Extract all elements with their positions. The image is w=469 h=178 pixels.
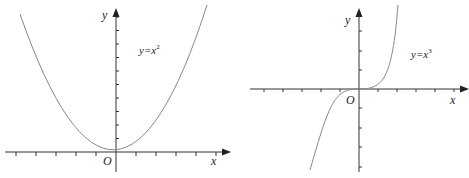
y-axis-label: y <box>101 8 108 22</box>
origin-label: O <box>103 154 112 168</box>
y-axis-arrow-icon <box>356 8 363 17</box>
x-axis-arrow-icon <box>460 86 469 93</box>
function-graphs: y x O y=x2 y <box>0 0 469 178</box>
parabola-curve <box>20 5 207 150</box>
y-axis-arrow-icon <box>113 8 120 17</box>
y-axis-label: y <box>344 13 351 27</box>
x-axis-arrow-icon <box>222 149 231 156</box>
graphs-svg: y x O y=x2 y <box>0 0 469 178</box>
x-axis-label: x <box>210 154 217 168</box>
graph-parabola: y x O y=x2 <box>5 5 231 172</box>
origin-label: O <box>346 93 355 107</box>
graph-cubic: y x O y=x3 <box>250 5 469 172</box>
cubic-curve <box>310 5 398 170</box>
x-axis-label: x <box>449 93 456 107</box>
function-label: y=x3 <box>410 47 432 60</box>
function-label: y=x2 <box>138 43 160 56</box>
